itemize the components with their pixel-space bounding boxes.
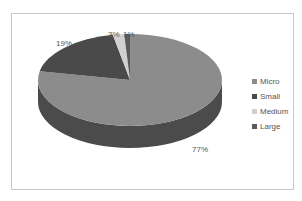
data-label-micro: 77% xyxy=(192,145,208,154)
legend-swatch-medium xyxy=(252,109,257,114)
legend-label: Large xyxy=(260,122,280,131)
data-label-small: 19% xyxy=(56,39,72,48)
legend-item-small[interactable]: Small xyxy=(252,89,288,104)
legend-swatch-small xyxy=(252,94,257,99)
data-label-medium: 3% xyxy=(108,30,120,39)
legend-label: Micro xyxy=(260,77,280,86)
legend-item-medium[interactable]: Medium xyxy=(252,104,288,119)
legend-item-large[interactable]: Large xyxy=(252,119,288,134)
legend-swatch-micro xyxy=(252,79,257,84)
legend-item-micro[interactable]: Micro xyxy=(252,74,288,89)
legend-label: Medium xyxy=(260,107,288,116)
legend-swatch-large xyxy=(252,124,257,129)
chart-legend: Micro Small Medium Large xyxy=(252,74,288,134)
legend-label: Small xyxy=(260,92,280,101)
data-label-large: 1% xyxy=(123,30,135,39)
